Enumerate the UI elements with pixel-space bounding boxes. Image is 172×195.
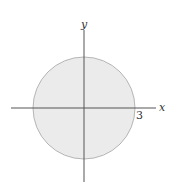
x-axis-label: x [159, 101, 166, 114]
radius-label: 3 [136, 109, 143, 122]
diagram-canvas: y x 3 [0, 0, 172, 195]
y-axis-label: y [80, 18, 88, 31]
